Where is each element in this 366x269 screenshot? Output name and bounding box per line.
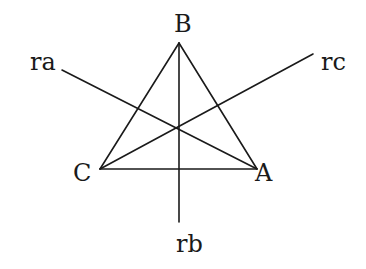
- triangle-diagram: B C A ra rc rb: [0, 0, 366, 269]
- line-ra: [62, 70, 257, 169]
- label-vertex-a: A: [254, 159, 273, 187]
- label-line-rb: rb: [176, 230, 203, 258]
- line-rc: [100, 54, 313, 169]
- label-line-rc: rc: [321, 48, 346, 76]
- label-vertex-c: C: [73, 159, 91, 187]
- label-vertex-b: B: [174, 10, 192, 38]
- side-bc: [100, 43, 179, 169]
- label-line-ra: ra: [30, 48, 56, 76]
- diagram-svg: B C A ra rc rb: [0, 0, 366, 269]
